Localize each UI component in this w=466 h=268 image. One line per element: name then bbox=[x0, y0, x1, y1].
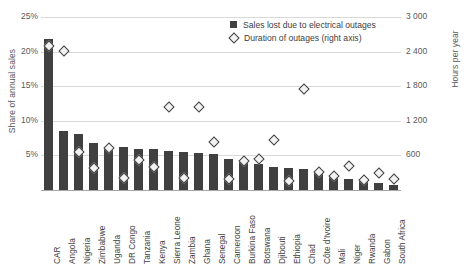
chart-legend: Sales lost due to electrical outages Dur… bbox=[230, 18, 376, 44]
diamond-marker bbox=[58, 45, 69, 56]
diamond-marker bbox=[133, 154, 144, 165]
y-axis-right-tick-label: 600 bbox=[406, 150, 446, 159]
x-axis-tick-label: Gabon bbox=[383, 239, 392, 264]
x-axis-tick-label: Côte d'Ivoire bbox=[323, 218, 332, 264]
y-axis-left-tick-label: 10% bbox=[4, 116, 38, 125]
y-axis-left-tick-label: 15% bbox=[4, 81, 38, 90]
diamond-marker bbox=[73, 146, 84, 157]
diamond-marker bbox=[268, 134, 279, 145]
legend-label-bars: Sales lost due to electrical outages bbox=[243, 20, 376, 30]
chart-container: Share of annual sales Hours per year 5%1… bbox=[0, 0, 466, 268]
x-axis-tick-label: Tanzania bbox=[143, 231, 152, 264]
diamond-marker bbox=[283, 175, 294, 186]
diamond-marker bbox=[178, 172, 189, 183]
y-axis-left-tick-label: 25% bbox=[4, 12, 38, 21]
diamond-marker bbox=[298, 83, 309, 94]
y-axis-left-tick-label: 5% bbox=[4, 150, 38, 159]
diamond-marker bbox=[118, 172, 129, 183]
x-axis-tick-label: Nigeria bbox=[83, 238, 92, 264]
x-axis-tick-label: Rwanda bbox=[368, 234, 377, 264]
y-axis-right-title: Hours per year bbox=[450, 0, 460, 119]
x-axis-tick-label: Burkina Faso bbox=[248, 215, 257, 264]
y-axis-right-tick-label: 1 800 bbox=[406, 81, 446, 90]
x-axis-tick-label: Zimbabwe bbox=[98, 226, 107, 264]
diamond-marker bbox=[163, 101, 174, 112]
x-axis-tick-label: Angola bbox=[68, 238, 77, 264]
y-axis-right-tick-label: 1 200 bbox=[406, 116, 446, 125]
y-axis-left-ticks: 5%10%15%20%25% bbox=[0, 0, 38, 268]
x-axis-tick-label: Mali bbox=[338, 249, 347, 264]
legend-diamond-icon bbox=[228, 32, 239, 43]
diamond-marker bbox=[328, 170, 339, 181]
x-axis-tick-label: Senegal bbox=[218, 234, 227, 264]
x-axis-category-labels: CARAngolaNigeriaZimbabweUgandaDR CongoTa… bbox=[41, 192, 401, 268]
diamond-marker bbox=[103, 142, 114, 153]
x-axis-tick-label: Uganda bbox=[113, 235, 122, 264]
diamond-marker bbox=[208, 136, 219, 147]
x-axis-tick-label: Zambia bbox=[188, 236, 197, 264]
x-axis-tick-label: CAR bbox=[53, 246, 62, 264]
legend-square-icon bbox=[230, 21, 237, 28]
x-axis-tick-label: Kenya bbox=[158, 240, 167, 264]
diamond-marker bbox=[253, 153, 264, 164]
diamond-marker bbox=[343, 160, 354, 171]
x-axis-tick-label: Sierra Leone bbox=[173, 216, 182, 264]
legend-item-bars: Sales lost due to electrical outages bbox=[230, 18, 376, 31]
y-axis-right-tick-label: 2 400 bbox=[406, 47, 446, 56]
x-axis-tick-label: South Africa bbox=[398, 219, 407, 264]
x-axis-tick-label: Cameroon bbox=[233, 225, 242, 264]
diamond-marker bbox=[373, 167, 384, 178]
y-axis-right-ticks: 6001 2001 8002 4003 000 bbox=[406, 0, 448, 268]
y-axis-right-tick-label: 3 000 bbox=[406, 12, 446, 21]
diamond-marker bbox=[223, 173, 234, 184]
x-axis-tick-label: Chad bbox=[308, 244, 317, 264]
x-axis-tick-label: Niger bbox=[353, 244, 362, 264]
diamond-marker bbox=[358, 174, 369, 185]
x-axis-tick-label: Djibouti bbox=[278, 236, 287, 264]
legend-item-diamonds: Duration of outages (right axis) bbox=[230, 31, 376, 44]
diamond-marker bbox=[88, 162, 99, 173]
diamond-marker bbox=[43, 40, 54, 51]
x-axis-tick-label: Ghana bbox=[203, 239, 212, 264]
diamond-marker bbox=[388, 173, 399, 184]
legend-label-diamonds: Duration of outages (right axis) bbox=[244, 33, 362, 43]
x-axis-line bbox=[41, 190, 401, 191]
x-axis-tick-label: Ethiopia bbox=[293, 234, 302, 264]
diamond-marker bbox=[148, 161, 159, 172]
x-axis-tick-label: Botswana bbox=[263, 228, 272, 264]
y-axis-left-tick-label: 20% bbox=[4, 47, 38, 56]
diamond-marker bbox=[193, 101, 204, 112]
diamond-marker bbox=[313, 166, 324, 177]
diamond-marker bbox=[238, 155, 249, 166]
x-axis-tick-label: DR Congo bbox=[128, 225, 137, 264]
